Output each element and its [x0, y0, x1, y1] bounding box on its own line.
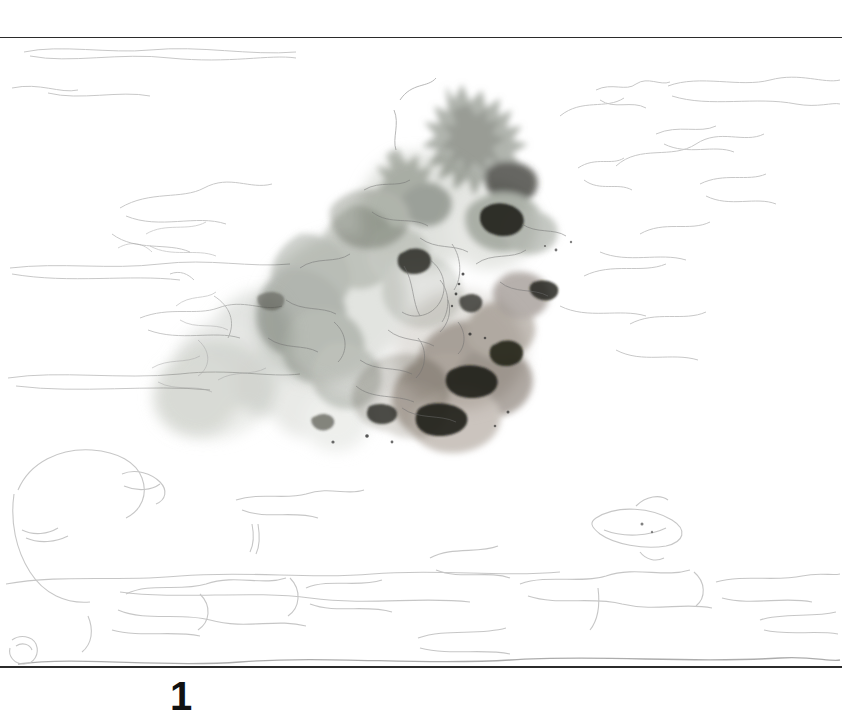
artwork: [0, 38, 842, 667]
drawing-area: [0, 38, 842, 667]
artwork-svg: [0, 38, 842, 667]
top-margin: [0, 0, 842, 37]
scanned-page: 1: [0, 0, 842, 718]
bottom-margin: [0, 668, 842, 718]
page-number: 1: [156, 676, 206, 716]
